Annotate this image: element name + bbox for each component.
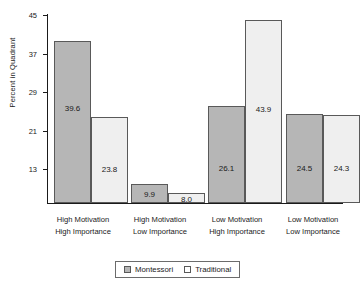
y-axis-line [47,14,48,204]
bar-value-label: 26.1 [209,164,244,173]
bar-montessori-high-motivation-low-importance[interactable]: 9.9 [131,184,168,203]
y-tick-45: 45 [43,15,47,16]
legend-swatch-montessori-icon [124,266,131,273]
legend-swatch-traditional-icon [184,266,191,273]
bar-value-label: 23.8 [92,165,127,174]
bar-value-label: 24.5 [287,164,322,173]
category-label-line1: Low Motivation [288,215,339,224]
y-tick-29: 29 [43,92,47,93]
category-label-low-motivation-low-importance: Low Motivation Low Importance [268,214,358,237]
bar-value-label: 24.3 [324,164,359,173]
bar-montessori-low-motivation-high-importance[interactable]: 26.1 [208,106,245,203]
y-tick-label-29: 29 [29,88,37,97]
category-label-line1: High Motivation [134,215,186,224]
y-tick-label-37: 37 [29,50,37,59]
bar-traditional-low-motivation-low-importance[interactable]: 24.3 [323,115,360,203]
y-tick-label-13: 13 [29,165,37,174]
legend-entry-montessori[interactable]: Montessori [124,265,173,274]
bar-traditional-low-motivation-high-importance[interactable]: 43.9 [245,20,282,203]
y-tick-37: 37 [43,54,47,55]
bar-value-label: 43.9 [246,105,281,114]
y-tick-21: 21 [43,131,47,132]
legend: Montessori Traditional [115,261,240,278]
y-tick-13: 13 [43,169,47,170]
bar-montessori-high-motivation-high-importance[interactable]: 39.6 [54,41,91,203]
plot-area: 45 37 29 21 13 39.6 23.8 9.9 8.0 26.1 [47,14,343,204]
bar-value-label: 8.0 [169,195,204,204]
category-label-line1: Low Motivation [212,215,263,224]
y-axis-title: Percent in Quadrant [8,13,17,133]
category-label-line1: High Motivation [57,215,109,224]
bar-value-label: 39.6 [55,104,90,113]
legend-entry-traditional[interactable]: Traditional [184,265,231,274]
y-tick-label-45: 45 [29,11,37,20]
bar-traditional-high-motivation-low-importance[interactable]: 8.0 [168,193,205,203]
bar-montessori-low-motivation-low-importance[interactable]: 24.5 [286,114,323,203]
legend-label-traditional: Traditional [195,265,231,274]
y-tick-label-21: 21 [29,127,37,136]
legend-label-montessori: Montessori [135,265,173,274]
bar-traditional-high-motivation-high-importance[interactable]: 23.8 [91,117,128,203]
category-label-line2: Low Importance [268,226,358,238]
bar-value-label: 9.9 [132,190,167,199]
